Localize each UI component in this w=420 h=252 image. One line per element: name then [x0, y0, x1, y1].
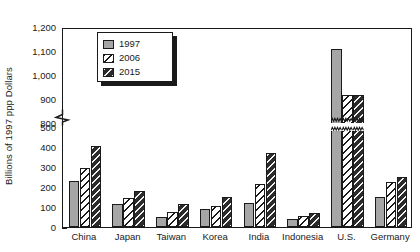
bar-group	[282, 27, 326, 227]
y-tick-label: 1,200	[10, 23, 56, 33]
legend-item-2006: 2006	[103, 51, 172, 65]
bar-indonesia-1997	[287, 219, 298, 227]
legend-item-1997: 1997	[103, 37, 172, 51]
x-tick-label-china: China	[62, 231, 106, 242]
x-tick-label-india: India	[237, 231, 281, 242]
bar-china-1997	[69, 181, 80, 227]
legend-label: 1997	[119, 39, 140, 49]
y-tick-label: 400	[10, 143, 56, 153]
x-tick-label-taiwan: Taiwan	[150, 231, 194, 242]
bar-japan-2015	[134, 191, 145, 227]
bar-taiwan-2015	[178, 204, 189, 227]
bar-japan-2006	[123, 198, 134, 227]
legend-label: 2015	[119, 67, 140, 77]
bar-korea-1997	[200, 209, 211, 227]
bar-us-2006	[342, 95, 353, 123]
bar-us-2015	[353, 95, 364, 123]
bar-taiwan-1997	[156, 217, 167, 227]
x-tick-label-germany: Germany	[368, 231, 412, 242]
y-tick-label: 1,100	[10, 47, 56, 57]
x-tick-label-korea: Korea	[193, 231, 237, 242]
bar-stub	[342, 131, 353, 227]
legend-swatch-icon	[103, 40, 114, 49]
bar-india-2006	[255, 184, 266, 227]
bar-group	[194, 27, 238, 227]
bar-us-1997	[331, 49, 342, 123]
bar-china-2006	[80, 168, 91, 227]
y-tick-label: 0	[10, 223, 56, 233]
bar-china-2015	[91, 146, 102, 227]
legend-label: 2006	[119, 53, 140, 63]
bar-korea-2015	[222, 197, 233, 227]
x-tick-label-us: U.S.	[325, 231, 369, 242]
x-tick-label-japan: Japan	[106, 231, 150, 242]
y-tick-label: 200	[10, 183, 56, 193]
bar-indonesia-2015	[309, 213, 320, 227]
chart-legend: 199720062015	[97, 32, 173, 82]
y-tick-label: 900	[10, 95, 56, 105]
bar-korea-2006	[211, 206, 222, 227]
bar-group	[326, 27, 370, 227]
legend-swatch-icon	[103, 68, 114, 77]
bar-taiwan-2006	[167, 212, 178, 227]
y-tick-label: 800	[10, 119, 56, 129]
legend-swatch-icon	[103, 54, 114, 63]
bar-stub	[353, 131, 364, 227]
x-tick-label-indonesia: Indonesia	[281, 231, 325, 242]
bar-indonesia-2006	[298, 216, 309, 227]
y-tick-label: 300	[10, 163, 56, 173]
bar-india-2015	[266, 153, 277, 227]
bar-stub	[331, 131, 342, 227]
y-tick-label: 1,000	[10, 71, 56, 81]
y-tick-label: 100	[10, 203, 56, 213]
legend-item-2015: 2015	[103, 65, 172, 79]
bar-group	[369, 27, 413, 227]
bar-chart: Billions of 1997 ppp Dollars 01002003004…	[0, 0, 420, 252]
bar-japan-1997	[112, 204, 123, 227]
bar-group	[238, 27, 282, 227]
bar-india-1997	[244, 203, 255, 227]
bar-germany-1997	[375, 197, 386, 227]
bar-germany-2015	[397, 177, 408, 227]
bar-germany-2006	[386, 182, 397, 227]
y-tick-mark	[62, 228, 67, 229]
axis-break-icon	[54, 108, 72, 126]
